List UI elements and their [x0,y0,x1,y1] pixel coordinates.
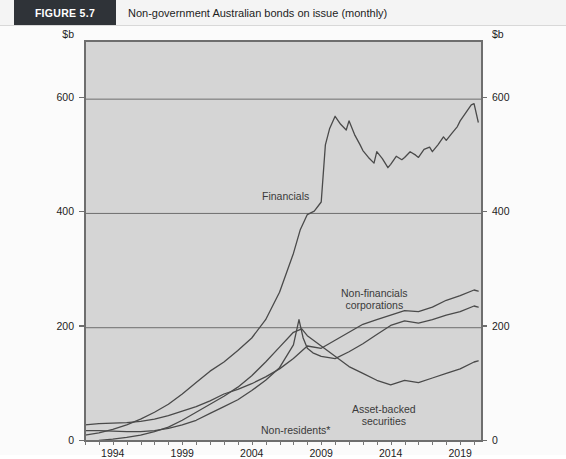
figure-number-badge: FIGURE 5.7 [14,0,116,25]
y-axis-tick-label-left: 600 [56,91,74,103]
y-axis-tick-label-right: 600 [492,91,510,103]
x-axis-minor-tick [127,441,128,445]
series-label-non-financials-line1: Non-financials [341,287,408,299]
y-axis-tick-mark-right [482,325,487,327]
x-axis-tick-label: 2014 [379,447,402,459]
x-axis-minor-tick [460,441,461,445]
x-axis-minor-tick [196,441,197,445]
x-axis-minor-tick [238,441,239,445]
y-axis-tick-mark-right [482,211,487,213]
x-axis-minor-tick [321,441,322,445]
x-axis-minor-tick [99,441,100,445]
x-axis-minor-tick [377,441,378,445]
x-axis-minor-tick [210,441,211,445]
x-axis-spine [84,440,483,442]
y-axis-tick-label-left: 200 [56,320,74,332]
x-axis-minor-tick [293,441,294,445]
series-label-asset-backed-line1: Asset-backed [352,403,416,415]
x-axis-minor-tick [363,441,364,445]
y-axis-left-spine [84,40,86,442]
y-axis-tick-mark-left [79,325,84,327]
y-axis-tick-mark-left [79,440,84,442]
series-label-non-financials-line2: corporations [341,299,408,311]
x-axis-tick-label: 1994 [101,447,124,459]
y-axis-tick-mark-left [79,97,84,99]
y-axis-left-unit: $b [62,28,74,40]
x-axis-minor-tick [474,441,475,445]
x-axis-minor-tick [446,441,447,445]
x-axis-minor-tick [280,441,281,445]
x-axis-minor-tick [432,441,433,445]
y-axis-tick-mark-left [79,211,84,213]
plot-area [85,40,481,440]
x-axis-minor-tick [266,441,267,445]
x-axis-minor-tick [141,441,142,445]
series-label-asset-backed-line2: securities [352,415,416,427]
y-axis-tick-label-right: 0 [492,434,498,446]
y-axis-tick-label-left: 400 [56,205,74,217]
figure-header: FIGURE 5.7 Non-government Australian bon… [0,0,566,26]
y-axis-tick-label-left: 0 [68,434,74,446]
x-axis-minor-tick [391,441,392,445]
x-axis-minor-tick [224,441,225,445]
series-canvas [85,42,481,442]
series-label-non-financials: Non-financials corporations [341,287,408,311]
x-axis-tick-label: 2004 [240,447,263,459]
series-line [85,306,478,432]
chart-area: $b $b 0020020040040060060019941999200420… [0,25,566,455]
series-label-non-residents: Non-residents* [261,424,330,436]
x-axis-minor-tick [307,441,308,445]
x-axis-minor-tick [252,441,253,445]
series-label-financials: Financials [262,190,309,202]
x-axis-minor-tick [113,441,114,445]
x-axis-minor-tick [349,441,350,445]
x-axis-minor-tick [182,441,183,445]
y-axis-right-spine [481,40,483,442]
y-axis-right-unit: $b [492,28,504,40]
x-axis-minor-tick [154,441,155,445]
y-axis-tick-mark-right [482,97,487,99]
series-label-asset-backed: Asset-backed securities [352,403,416,427]
x-axis-tick-label: 2019 [448,447,471,459]
series-line [85,290,478,425]
x-axis-minor-tick [418,441,419,445]
x-axis-tick-label: 2009 [310,447,333,459]
series-line [85,104,478,435]
y-axis-tick-label-right: 200 [492,320,510,332]
x-axis-minor-tick [168,441,169,445]
x-axis-minor-tick [85,441,86,445]
x-axis-minor-tick [405,441,406,445]
y-axis-tick-label-right: 400 [492,205,510,217]
figure-title: Non-government Australian bonds on issue… [128,0,387,25]
y-axis-tick-mark-right [482,440,487,442]
x-axis-tick-label: 1999 [171,447,194,459]
x-axis-minor-tick [335,441,336,445]
